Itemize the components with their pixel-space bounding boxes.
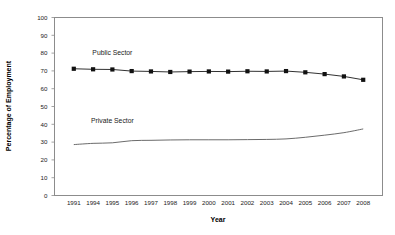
y-tick-label-70: 70 <box>41 67 48 74</box>
x-tick-label-1995: 1995 <box>105 199 119 206</box>
plot-frame <box>55 18 383 196</box>
series-line-private-sector <box>74 129 363 145</box>
series-annotations: Public SectorPrivate Sector <box>91 49 134 124</box>
x-tick-label-1994: 1994 <box>86 199 100 206</box>
data-point-public-2000 <box>207 69 211 73</box>
y-tick-label-50: 50 <box>41 103 48 110</box>
data-point-public-2005 <box>303 70 307 74</box>
data-point-public-1995 <box>110 67 114 71</box>
data-point-public-1999 <box>187 70 191 74</box>
x-tick-label-1997: 1997 <box>144 199 158 206</box>
data-point-public-2007 <box>342 74 346 78</box>
x-tick-label-2006: 2006 <box>318 199 332 206</box>
x-tick-label-1996: 1996 <box>125 199 139 206</box>
y-tick-label-30: 30 <box>41 138 48 145</box>
y-axis-title: Percentage of Employment <box>5 60 13 151</box>
y-tick-label-20: 20 <box>41 156 48 163</box>
line-chart: 0102030405060708090100 19911994199519961… <box>0 0 395 235</box>
series-markers-public-sector <box>72 67 366 82</box>
data-point-public-1997 <box>149 69 153 73</box>
x-tick-label-2000: 2000 <box>202 199 216 206</box>
y-tick-label-100: 100 <box>37 14 48 21</box>
x-tick-label-1991: 1991 <box>67 199 81 206</box>
x-axis-tick-labels: 1991199419951996199719981999200020012002… <box>67 199 371 206</box>
y-tick-label-60: 60 <box>41 85 48 92</box>
y-tick-label-90: 90 <box>41 32 48 39</box>
y-tick-label-40: 40 <box>41 121 48 128</box>
data-point-public-2001 <box>226 70 230 74</box>
x-tick-label-1998: 1998 <box>163 199 177 206</box>
data-point-public-2003 <box>265 69 269 73</box>
chart-container: 0102030405060708090100 19911994199519961… <box>0 0 395 235</box>
data-point-public-1994 <box>91 67 95 71</box>
series-line-public-sector <box>74 69 363 80</box>
data-point-public-2004 <box>284 69 288 73</box>
data-point-public-2006 <box>323 72 327 76</box>
y-axis-tick-labels: 0102030405060708090100 <box>37 14 48 199</box>
x-tick-label-2002: 2002 <box>241 199 255 206</box>
x-tick-label-2007: 2007 <box>337 199 351 206</box>
x-tick-label-1999: 1999 <box>183 199 197 206</box>
series-label-public-sector: Public Sector <box>92 49 133 56</box>
data-point-public-1998 <box>168 70 172 74</box>
data-point-public-1991 <box>72 67 76 71</box>
y-tick-label-10: 10 <box>41 174 48 181</box>
x-tick-label-2003: 2003 <box>260 199 274 206</box>
data-point-public-2008 <box>361 78 365 82</box>
x-tick-label-2004: 2004 <box>279 199 293 206</box>
series-label-private-sector: Private Sector <box>91 117 134 124</box>
x-tick-label-2005: 2005 <box>298 199 312 206</box>
y-tick-label-0: 0 <box>44 192 48 199</box>
x-tick-label-2001: 2001 <box>221 199 235 206</box>
data-point-public-1996 <box>130 69 134 73</box>
x-axis-title: Year <box>211 216 226 223</box>
x-tick-label-2008: 2008 <box>356 199 370 206</box>
y-tick-label-80: 80 <box>41 49 48 56</box>
data-point-public-2002 <box>245 69 249 73</box>
